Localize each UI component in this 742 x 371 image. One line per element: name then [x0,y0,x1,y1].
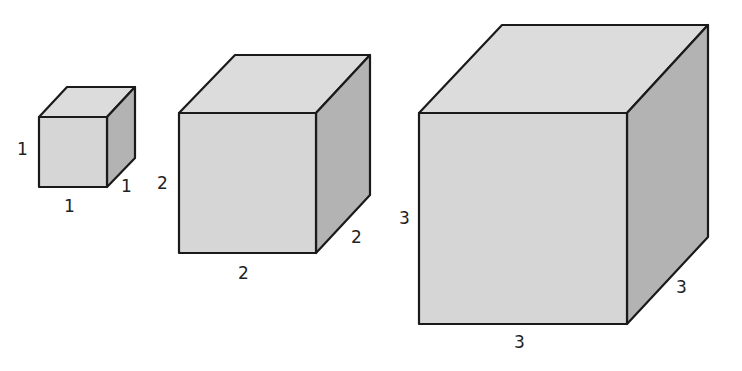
cube-medium: 2 2 2 [157,55,370,283]
cube-medium-width-label: 2 [238,263,249,283]
cube-small-front-face [39,117,107,187]
cube-large-width-label: 3 [514,332,525,352]
cube-small-height-label: 1 [17,139,28,159]
cube-large-depth-label: 3 [676,277,687,297]
cube-medium-height-label: 2 [157,173,168,193]
cube-small-width-label: 1 [64,196,75,216]
cubes-diagram: 1 1 1 2 2 2 3 3 3 [0,0,742,371]
cube-small-depth-label: 1 [121,176,132,196]
cube-large-front-face [419,113,627,324]
cube-large-height-label: 3 [399,208,410,228]
cube-large: 3 3 3 [399,25,708,352]
cube-medium-front-face [179,113,316,253]
cube-small: 1 1 1 [17,87,135,216]
cube-medium-depth-label: 2 [351,227,362,247]
